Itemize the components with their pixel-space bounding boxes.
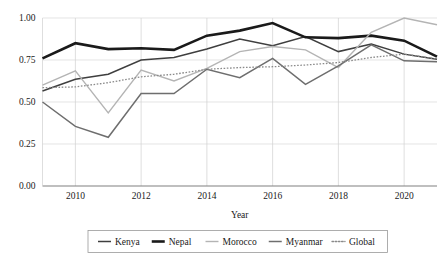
x-tick-label: 2014 xyxy=(197,191,216,201)
y-tick-label: 0.50 xyxy=(19,97,36,107)
legend-label-myanmar: Myanmar xyxy=(286,237,324,247)
series-line-myanmar xyxy=(43,45,438,137)
chart-legend: KenyaNepalMoroccoMyanmarGlobal xyxy=(88,231,388,253)
y-tick-label: 0.00 xyxy=(19,181,36,191)
legend-label-morocco: Morocco xyxy=(223,237,258,247)
x-tick-label: 2016 xyxy=(263,191,282,201)
y-tick-label: 1.00 xyxy=(19,13,36,23)
x-tick-label: 2018 xyxy=(329,191,348,201)
series-line-nepal xyxy=(43,23,438,58)
x-axis-title: Year xyxy=(231,210,249,220)
series-line-morocco xyxy=(43,18,438,113)
series-lines xyxy=(43,18,438,137)
series-line-global xyxy=(43,54,438,88)
x-tick-label: 2020 xyxy=(395,191,414,201)
x-axis-tick-labels: 201020122014201620182020 xyxy=(66,191,414,201)
x-tick-label: 2010 xyxy=(66,191,85,201)
y-axis-tick-labels: 0.000.250.500.751.00 xyxy=(19,13,36,191)
x-tick-label: 2012 xyxy=(132,191,151,201)
y-tick-label: 0.25 xyxy=(19,139,36,149)
legend-label-nepal: Nepal xyxy=(169,237,192,247)
line-chart: 0.000.250.500.751.00 2010201220142016201… xyxy=(0,0,446,264)
y-tick-label: 0.75 xyxy=(19,55,36,65)
chart-canvas: 0.000.250.500.751.00 2010201220142016201… xyxy=(0,0,446,264)
legend-label-kenya: Kenya xyxy=(115,237,141,247)
legend-label-global: Global xyxy=(349,237,375,247)
series-line-kenya xyxy=(43,36,438,91)
